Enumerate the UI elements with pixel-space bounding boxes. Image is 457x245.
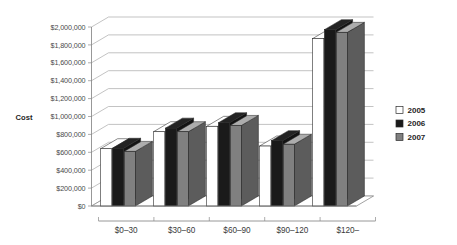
- x-category-label: $90–120: [276, 226, 308, 235]
- y-tick-label: $800,000: [56, 130, 85, 139]
- chart-legend: 200520062007: [396, 106, 426, 142]
- y-tick-label: $1,200,000: [51, 94, 86, 103]
- bar: [230, 115, 258, 206]
- legend-swatch: [396, 107, 403, 114]
- legend-item: 2007: [396, 133, 426, 142]
- y-tick-label: $1,000,000: [51, 112, 86, 121]
- legend-label: 2005: [408, 106, 426, 115]
- x-category-label: $60–90: [223, 226, 251, 235]
- legend-item: 2005: [396, 106, 426, 115]
- y-tick-label: $1,400,000: [51, 76, 86, 85]
- legend-label: 2007: [408, 133, 426, 142]
- bar: [177, 122, 205, 206]
- y-tick-label: $200,000: [56, 184, 85, 193]
- y-tick-label: $0: [78, 202, 86, 211]
- legend-swatch: [396, 134, 403, 141]
- chart-canvas: $0$200,000$400,000$600,000$800,000$1,000…: [0, 0, 457, 245]
- y-tick-label: $1,600,000: [51, 58, 86, 67]
- y-axis-title-text: Cost: [16, 113, 33, 122]
- x-category-label: $30–60: [168, 226, 196, 235]
- bar: [336, 22, 364, 206]
- y-axis-title: Cost: [16, 113, 33, 122]
- x-category-label: $0–30: [115, 226, 138, 235]
- y-tick-label: $600,000: [56, 148, 85, 157]
- legend-label: 2006: [408, 119, 426, 128]
- bar: [283, 134, 311, 206]
- y-tick-label: $400,000: [56, 166, 85, 175]
- legend-swatch: [396, 120, 403, 127]
- bar-chart: $0$200,000$400,000$600,000$800,000$1,000…: [0, 0, 457, 245]
- bar: [124, 141, 152, 206]
- x-category-label: $120–: [336, 226, 359, 235]
- legend-item: 2006: [396, 119, 426, 128]
- y-tick-label: $2,000,000: [51, 23, 86, 32]
- y-tick-label: $1,800,000: [51, 41, 86, 50]
